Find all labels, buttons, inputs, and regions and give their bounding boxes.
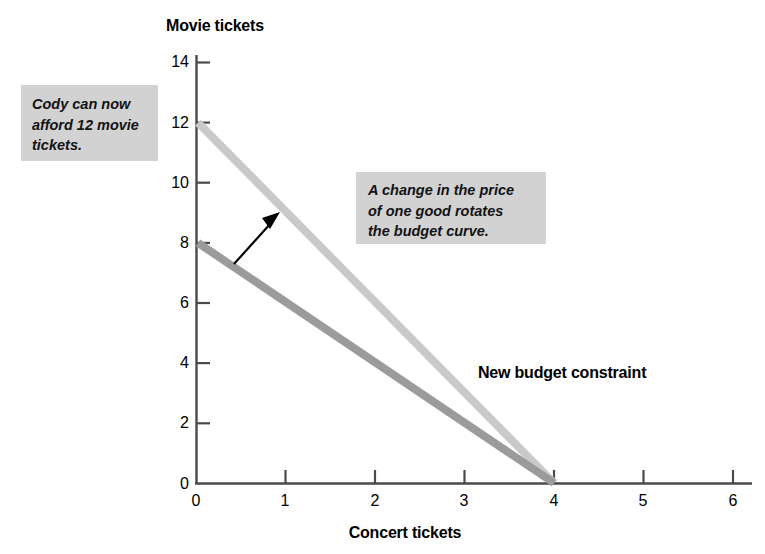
x-axis-title: Concert tickets [349, 524, 462, 542]
plot-area [0, 0, 765, 554]
budget-constraint-chart: Movie tickets Concert tickets 14 12 10 8… [0, 0, 765, 554]
x-tick-label-2: 2 [371, 492, 380, 510]
y-tick-label-14: 14 [171, 53, 189, 71]
y-tick-label-12: 12 [171, 114, 189, 132]
y-tick-label-0: 0 [180, 475, 189, 493]
rotation-arrow-icon [234, 212, 280, 264]
x-tick-label-1: 1 [281, 492, 290, 510]
x-tick-label-5: 5 [639, 492, 648, 510]
y-axis-title: Movie tickets [166, 17, 264, 35]
y-tick-label-10: 10 [171, 174, 189, 192]
new-budget-constraint-label: New budget constraint [478, 364, 646, 382]
callout-price-change-rotation: A change in the price of one good rotate… [356, 172, 546, 244]
callout-left-line-2: afford 12 movie [32, 115, 158, 136]
callout-cody-affordability: Cody can now afford 12 movie tickets. [21, 85, 158, 161]
callout-right-line-1: A change in the price [368, 180, 546, 201]
callout-left-line-3: tickets. [32, 135, 158, 156]
y-tick-label-4: 4 [180, 354, 189, 372]
x-tick-label-0: 0 [192, 492, 201, 510]
x-tick-label-6: 6 [729, 492, 738, 510]
callout-right-line-2: of one good rotates [368, 201, 546, 222]
y-tick-label-8: 8 [180, 234, 189, 252]
callout-left-line-1: Cody can now [32, 94, 158, 115]
x-tick-label-4: 4 [550, 492, 559, 510]
x-tick-label-3: 3 [460, 492, 469, 510]
y-tick-label-2: 2 [180, 414, 189, 432]
callout-right-line-3: the budget curve. [368, 221, 546, 242]
x-axis-ticks [286, 470, 734, 483]
y-tick-label-6: 6 [180, 294, 189, 312]
original-budget-constraint-line [198, 243, 554, 483]
